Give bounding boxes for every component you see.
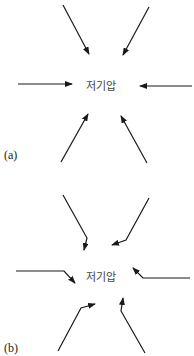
low-pressure-label-a: 저기압 — [86, 77, 116, 93]
panel-tag-a: (a) — [4, 148, 17, 163]
low-pressure-label-b: 저기압 — [86, 268, 116, 284]
wind-arrow-top-left — [63, 5, 89, 54]
wind-arrow-top-left — [63, 195, 87, 250]
wind-arrow-top-right — [123, 7, 149, 55]
wind-arrow-top-right — [112, 198, 149, 245]
wind-arrow-bottom-left — [58, 304, 95, 351]
wind-arrow-bottom-right — [121, 116, 147, 163]
wind-arrow-left — [16, 271, 75, 283]
wind-arrow-bottom-right — [121, 298, 145, 353]
wind-arrow-right — [133, 268, 190, 278]
wind-arrow-bottom-left — [61, 114, 88, 162]
diagram-canvas — [0, 0, 194, 356]
panel-tag-b: (b) — [4, 341, 18, 356]
